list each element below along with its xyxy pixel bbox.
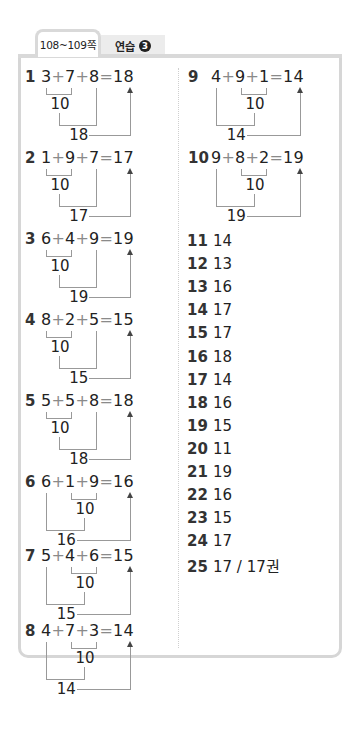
first-sum: 10	[51, 257, 70, 275]
second-sum: 18	[69, 450, 88, 468]
answer-value: 19	[213, 463, 232, 481]
arrow-line	[130, 646, 131, 690]
addend-b: 2	[65, 310, 75, 329]
arrow-line	[130, 92, 131, 136]
result: 19	[283, 148, 304, 167]
addend-b: 8	[235, 148, 245, 167]
answer-row: 1316	[187, 278, 232, 296]
plus-sign: +	[51, 229, 65, 248]
bracket-line	[254, 194, 255, 206]
addend-a: 8	[41, 310, 51, 329]
problem-number: 6	[25, 473, 35, 491]
equation: 5+5+8=18	[41, 391, 134, 410]
answer-number: 25	[187, 558, 213, 576]
bracket-line	[216, 169, 217, 206]
arrow-up-icon	[127, 411, 133, 417]
answer-row: 2315	[187, 509, 232, 527]
addend-a: 5	[41, 391, 51, 410]
equals-sign: =	[99, 472, 113, 491]
first-sum: 10	[76, 574, 95, 592]
addend-b: 9	[65, 148, 75, 167]
addend-b: 7	[65, 67, 75, 86]
first-sum: 10	[51, 419, 70, 437]
arrow-line	[77, 614, 130, 615]
answer-number: 24	[187, 532, 213, 550]
addend-b: 7	[65, 621, 75, 640]
answer-row: 1417	[187, 301, 232, 319]
tab-practice-label: 연습	[115, 38, 135, 54]
addend-a: 9	[211, 148, 221, 167]
bracket-line	[59, 356, 60, 368]
plus-sign: +	[51, 67, 65, 86]
answer-number: 23	[187, 509, 213, 527]
addend-a: 4	[211, 67, 221, 86]
answer-number: 22	[187, 486, 213, 504]
arrow-line	[130, 416, 131, 460]
bracket-line	[84, 518, 85, 530]
arrow-line	[130, 173, 131, 217]
equals-sign: =	[99, 621, 113, 640]
plus-sign: +	[51, 621, 65, 640]
plus-sign: +	[75, 621, 89, 640]
arrow-up-icon	[297, 168, 303, 174]
answer-value: 16	[213, 394, 232, 412]
equation: 8+2+5=15	[41, 310, 134, 329]
second-sum: 19	[227, 207, 246, 225]
arrow-up-icon	[127, 249, 133, 255]
addend-c: 5	[89, 310, 99, 329]
addend-a: 1	[41, 148, 51, 167]
equation: 4+9+1=14	[211, 67, 304, 86]
bracket-line	[84, 667, 85, 679]
addend-a: 4	[41, 621, 51, 640]
equation: 9+8+2=19	[211, 148, 304, 167]
equation: 6+4+9=19	[41, 229, 134, 248]
answer-number: 13	[187, 278, 213, 296]
result: 17	[113, 148, 134, 167]
answer-value: 17 / 17권	[213, 558, 280, 576]
arrow-line	[130, 254, 131, 298]
addend-b: 4	[65, 229, 75, 248]
arrow-line	[130, 571, 131, 615]
bracket-line	[254, 113, 255, 125]
answer-value: 16	[213, 278, 232, 296]
answer-value: 16	[213, 486, 232, 504]
problem-number: 3	[25, 230, 35, 248]
arrow-line	[247, 135, 300, 136]
arrow-line	[89, 216, 130, 217]
answer-number: 14	[187, 301, 213, 319]
first-sum: 10	[246, 176, 265, 194]
arrow-line	[89, 459, 130, 460]
addend-c: 6	[89, 546, 99, 565]
equation: 4+7+3=14	[41, 621, 134, 640]
problem-number: 10	[188, 149, 209, 167]
plus-sign: +	[51, 391, 65, 410]
bracket-line	[96, 88, 97, 125]
first-sum: 10	[51, 338, 70, 356]
answer-number: 17	[187, 371, 213, 389]
equals-sign: =	[99, 148, 113, 167]
arrow-up-icon	[127, 168, 133, 174]
first-sum: 10	[76, 500, 95, 518]
plus-sign: +	[75, 229, 89, 248]
addend-c: 9	[89, 472, 99, 491]
plus-sign: +	[221, 148, 235, 167]
tab-pages[interactable]: 108~109쪽	[35, 29, 101, 57]
answer-row: 1114	[187, 232, 232, 250]
answer-row: 2417	[187, 532, 232, 550]
result: 16	[113, 472, 134, 491]
answer-value: 11	[213, 440, 232, 458]
bracket-line	[96, 169, 97, 206]
equation: 6+1+9=16	[41, 472, 134, 491]
tab-practice[interactable]: 연습 3	[101, 35, 165, 56]
arrow-line	[300, 92, 301, 136]
plus-sign: +	[75, 472, 89, 491]
answer-row: 1213	[187, 255, 232, 273]
addend-a: 3	[41, 67, 51, 86]
second-sum: 18	[69, 126, 88, 144]
arrow-line	[89, 297, 130, 298]
addend-a: 6	[41, 229, 51, 248]
plus-sign: +	[75, 310, 89, 329]
addend-c: 9	[89, 229, 99, 248]
column-divider	[178, 68, 179, 648]
addend-a: 5	[41, 546, 51, 565]
